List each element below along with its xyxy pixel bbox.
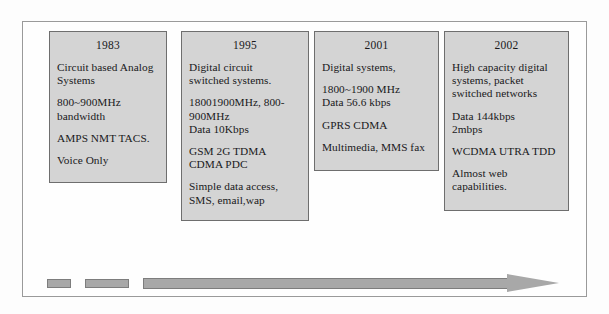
timeline-dash-1	[47, 279, 71, 288]
generation-detail: Voice Only	[57, 154, 159, 167]
generation-detail: Circuit based Analog Systems	[57, 61, 159, 87]
generation-detail: 800~900MHz bandwidth	[57, 96, 159, 122]
generation-detail: Almost web capabilities.	[452, 167, 561, 193]
diagram-frame: 1983 Circuit based Analog Systems 800~90…	[22, 21, 587, 297]
generation-detail: Data 144kbps 2mbps	[452, 110, 561, 136]
generation-year-2002: 2002	[452, 38, 561, 52]
generation-box-1995: 1995 Digital circuit switched systems. 1…	[181, 31, 309, 221]
generation-detail: 1800~1900 MHz Data 56.6 kbps	[322, 83, 431, 109]
generation-detail: GPRS CDMA	[322, 119, 431, 132]
generation-detail: AMPS NMT TACS.	[57, 132, 159, 145]
generation-year-1995: 1995	[189, 38, 301, 52]
generation-detail: Digital systems,	[322, 61, 431, 74]
timeline-arrow-shaft	[143, 278, 514, 289]
generation-detail: High capacity digital systems, packet sw…	[452, 61, 561, 101]
generation-detail: 18001900MHz, 800- 900MHz Data 10Kbps	[189, 96, 301, 136]
generation-box-2001: 2001 Digital systems, 1800~1900 MHz Data…	[314, 31, 439, 171]
generation-year-1983: 1983	[57, 38, 159, 52]
generation-box-1983: 1983 Circuit based Analog Systems 800~90…	[49, 31, 167, 183]
timeline-dash-2	[85, 279, 129, 288]
generation-detail: Digital circuit switched systems.	[189, 61, 301, 87]
generation-detail: WCDMA UTRA TDD	[452, 145, 561, 158]
generation-detail: Multimedia, MMS fax	[322, 141, 431, 154]
timeline-arrow	[23, 270, 588, 298]
generation-detail: GSM 2G TDMA CDMA PDC	[189, 145, 301, 171]
timeline-arrow-head-icon	[507, 274, 559, 292]
generation-year-2001: 2001	[322, 38, 431, 52]
generation-box-2002: 2002 High capacity digital systems, pack…	[444, 31, 569, 211]
generation-detail: Simple data access, SMS, email,wap	[189, 180, 301, 206]
